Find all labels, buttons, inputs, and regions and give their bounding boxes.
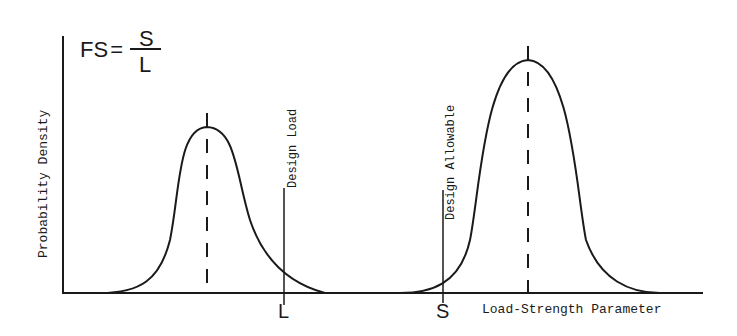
formula-lhs: FS= [80, 37, 123, 62]
design-load-label: Design Load [286, 109, 300, 188]
formula-denominator: L [139, 52, 151, 77]
design-allowable-label: Design Allowable [444, 105, 458, 220]
strength-distribution-curve [400, 60, 660, 293]
y-axis-label: Probability Density [36, 110, 51, 258]
x-axis-label: Load-Strength Parameter [482, 302, 661, 317]
diagram-svg: Probability Density FS= S L Design Load … [0, 0, 737, 336]
load-strength-diagram: Probability Density FS= S L Design Load … [0, 0, 737, 336]
S-tick-label: S [436, 300, 449, 322]
L-tick-label: L [278, 300, 289, 322]
formula-numerator: S [139, 26, 154, 51]
